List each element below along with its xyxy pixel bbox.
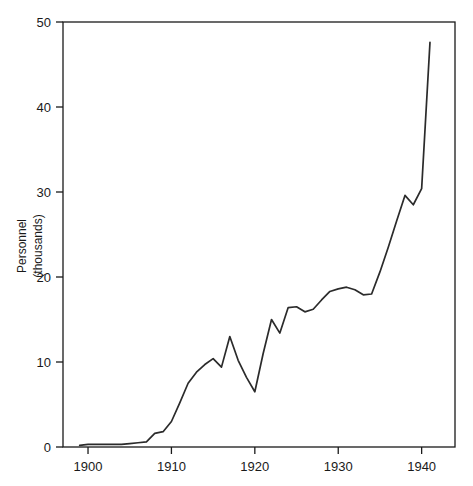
y-tick-label: 50: [37, 15, 51, 30]
y-tick-label: 10: [37, 355, 51, 370]
y-tick-label: 40: [37, 100, 51, 115]
x-tick-label: 1920: [240, 459, 269, 474]
series-group: [80, 42, 430, 445]
y-axis-title-line1: Personnel: [15, 219, 29, 273]
y-tick-label: 30: [37, 185, 51, 200]
personnel-line-chart: 01020304050 19001910192019301940 Personn…: [0, 0, 473, 486]
x-tick-label: 1940: [407, 459, 436, 474]
x-tick-label: 1930: [324, 459, 353, 474]
x-axis: 19001910192019301940: [74, 447, 437, 474]
x-tick-label: 1910: [157, 459, 186, 474]
y-axis-title: Personnel (thousands): [15, 214, 45, 277]
x-tick-label: 1900: [74, 459, 103, 474]
series-line-personnel: [80, 42, 430, 445]
plot-frame: [63, 22, 455, 447]
y-axis-title-line2: (thousands): [31, 214, 45, 277]
y-tick-label: 0: [44, 440, 51, 455]
chart-figure: 01020304050 19001910192019301940 Personn…: [0, 0, 473, 486]
